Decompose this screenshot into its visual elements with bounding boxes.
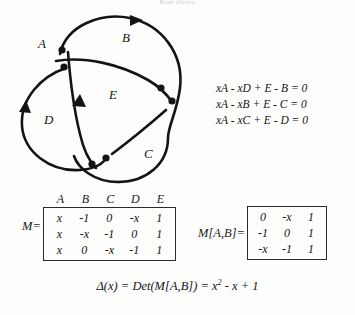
matrix-row: x 0 -x -1 1 <box>47 242 172 258</box>
matrix-ab-table: 0 -x 1 -1 0 1 -x -1 1 <box>251 209 323 257</box>
matrix-m-header-b: B <box>73 192 98 207</box>
matrix-area: M= A B C D E x -1 0 -x <box>0 192 355 282</box>
matrix-m-header-e: E <box>148 192 173 207</box>
knot-region-label-c: C <box>144 146 153 162</box>
matrix-cell: 1 <box>299 209 323 225</box>
matrix-cell: x <box>47 226 72 242</box>
matrix-row: -1 0 1 <box>251 225 323 241</box>
matrix-cell: -x <box>251 241 275 257</box>
matrix-cell: 0 <box>97 210 122 226</box>
matrix-cell: -x <box>275 209 299 225</box>
matrix-cell: 0 <box>122 226 147 242</box>
knot-strand-upper-loop <box>60 17 180 88</box>
matrix-cell: 0 <box>275 225 299 241</box>
crossing-dot <box>58 46 65 53</box>
equation-list: xA - xD + E - B = 0 xA - xB + E - C = 0 … <box>216 80 308 128</box>
determinant-lhs: Δ(x) = Det(M[A,B]) = x <box>97 279 218 293</box>
knot-strand-e-lower <box>112 110 166 154</box>
matrix-cell: -1 <box>72 210 97 226</box>
determinant-rhs: - x + 1 <box>222 279 259 293</box>
matrix-m-block: M= A B C D E x -1 0 -x <box>22 192 176 261</box>
matrix-m-box: x -1 0 -x 1 x -x -1 0 1 <box>43 207 176 261</box>
knot-region-label-e: E <box>109 87 117 103</box>
crossing-dot <box>168 97 175 104</box>
knot-strand-vertical <box>68 52 96 168</box>
crossing-dot <box>157 84 164 91</box>
matrix-cell: 1 <box>147 226 172 242</box>
matrix-cell: -x <box>97 242 122 258</box>
crossing-dot <box>88 160 95 167</box>
matrix-cell: 1 <box>147 210 172 226</box>
knot-region-label-d: D <box>44 112 53 128</box>
equation-2: xA - xB + E - C = 0 <box>216 96 308 112</box>
arrowhead-top <box>130 15 143 26</box>
arrowhead-left <box>19 100 31 113</box>
matrix-ab-block: M[A,B]= 0 -x 1 -1 0 1 -x -1 <box>198 206 327 260</box>
matrix-m-header-d: D <box>123 192 148 207</box>
matrix-cell: -1 <box>97 226 122 242</box>
crossing-dot <box>102 154 109 161</box>
crossing-dot <box>60 63 67 70</box>
matrix-cell: -x <box>72 226 97 242</box>
matrix-row: 0 -x 1 <box>251 209 323 225</box>
matrix-cell: 1 <box>299 241 323 257</box>
determinant-equation: Δ(x) = Det(M[A,B]) = x2 - x + 1 <box>0 279 355 294</box>
matrix-cell: x <box>47 210 72 226</box>
matrix-m-header-c: C <box>98 192 123 207</box>
matrix-m-table: x -1 0 -x 1 x -x -1 0 1 <box>47 210 172 258</box>
matrix-cell: -1 <box>122 242 147 258</box>
matrix-m-with-headers: A B C D E x -1 0 -x 1 <box>43 192 176 261</box>
matrix-row: -x -1 1 <box>251 241 323 257</box>
matrix-cell: -1 <box>251 225 275 241</box>
knot-diagram: A B C D E <box>0 6 210 196</box>
equation-3: xA - xC + E - D = 0 <box>216 112 308 128</box>
matrix-cell: 0 <box>72 242 97 258</box>
matrix-row: x -x -1 0 1 <box>47 226 172 242</box>
matrix-ab-label: M[A,B]= <box>198 226 247 241</box>
matrix-ab-box: 0 -x 1 -1 0 1 -x -1 1 <box>247 206 327 260</box>
matrix-cell: x <box>47 242 72 258</box>
matrix-cell: -x <box>122 210 147 226</box>
matrix-cell: 1 <box>147 242 172 258</box>
matrix-cell: 0 <box>251 209 275 225</box>
knot-svg <box>0 6 210 196</box>
figure-page: Knot theory <box>0 0 355 315</box>
matrix-m-header-a: A <box>48 192 73 207</box>
matrix-m-label: M= <box>22 219 43 234</box>
matrix-cell: 1 <box>299 225 323 241</box>
matrix-cell: -1 <box>275 241 299 257</box>
matrix-m-column-headers: A B C D E <box>43 192 176 207</box>
knot-region-label-b: B <box>122 30 130 46</box>
matrix-row: x -1 0 -x 1 <box>47 210 172 226</box>
knot-region-label-a: A <box>38 36 46 52</box>
equation-1: xA - xD + E - B = 0 <box>216 80 308 96</box>
